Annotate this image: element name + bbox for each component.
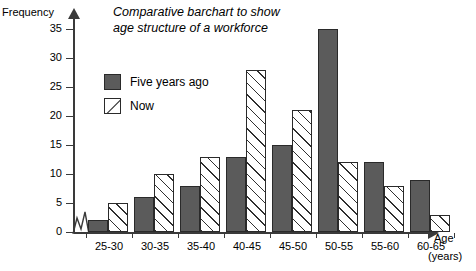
x-tick-label: 60-65 bbox=[406, 240, 456, 252]
bar-25-30-five-years-ago bbox=[88, 220, 108, 232]
y-tick-label: 25 bbox=[36, 81, 62, 92]
y-tick bbox=[66, 203, 73, 204]
y-tick bbox=[66, 29, 73, 30]
bar-30-35-now bbox=[154, 174, 174, 232]
bar-55-60-five-years-ago bbox=[364, 162, 384, 232]
bar-45-50-five-years-ago bbox=[272, 145, 292, 232]
bar-55-60-now bbox=[384, 186, 404, 232]
y-tick bbox=[66, 174, 73, 175]
bar-50-55-now bbox=[338, 162, 358, 232]
y-tick-label: 20 bbox=[36, 110, 62, 121]
x-tick-label: 30-35 bbox=[130, 240, 180, 252]
x-tick-label: 55-60 bbox=[360, 240, 410, 252]
y-tick bbox=[66, 232, 73, 233]
legend-swatch-solid-icon bbox=[104, 74, 121, 90]
y-tick bbox=[66, 116, 73, 117]
bar-50-55-five-years-ago bbox=[318, 29, 338, 232]
legend-swatch-hatch-icon bbox=[104, 98, 121, 114]
x-tick-label: 40-45 bbox=[222, 240, 272, 252]
bar-40-45-now bbox=[246, 70, 266, 232]
y-tick-label: 0 bbox=[36, 226, 62, 237]
y-tick-label: 15 bbox=[36, 139, 62, 150]
x-tick bbox=[454, 233, 455, 238]
legend: Five years ago Now bbox=[104, 72, 209, 120]
bar-35-40-now bbox=[200, 157, 220, 232]
y-tick-label: 30 bbox=[36, 52, 62, 63]
y-tick-label: 35 bbox=[36, 23, 62, 34]
x-tick-label: 35-40 bbox=[176, 240, 226, 252]
legend-label-now: Now bbox=[130, 99, 154, 113]
x-tick bbox=[86, 233, 87, 238]
bar-40-45-five-years-ago bbox=[226, 157, 246, 232]
y-axis-arrow-icon bbox=[68, 8, 80, 19]
bar-30-35-five-years-ago bbox=[134, 197, 154, 232]
y-tick-label: 5 bbox=[36, 197, 62, 208]
y-tick-label: 10 bbox=[36, 168, 62, 179]
chart-title-line-1: Comparative barchart to show bbox=[113, 4, 363, 20]
y-axis-line bbox=[73, 18, 75, 233]
legend-item-five-years-ago: Five years ago bbox=[104, 72, 209, 92]
legend-label-five-years-ago: Five years ago bbox=[130, 75, 209, 89]
bar-35-40-five-years-ago bbox=[180, 186, 200, 232]
bar-45-50-now bbox=[292, 110, 312, 232]
legend-item-now: Now bbox=[104, 96, 209, 116]
x-tick bbox=[132, 233, 133, 238]
bar-60-65-five-years-ago bbox=[410, 180, 430, 232]
x-tick bbox=[178, 233, 179, 238]
y-tick bbox=[66, 58, 73, 59]
bar-chart: Comparative barchart to show age structu… bbox=[0, 0, 476, 271]
y-tick bbox=[66, 87, 73, 88]
x-tick-label: 25-30 bbox=[84, 240, 134, 252]
x-tick-label: 45-50 bbox=[268, 240, 318, 252]
bar-25-30-now bbox=[108, 203, 128, 232]
x-tick bbox=[362, 233, 363, 238]
x-tick bbox=[224, 233, 225, 238]
x-tick bbox=[316, 233, 317, 238]
y-axis-title: Frequency bbox=[2, 6, 54, 18]
x-axis-line bbox=[74, 232, 430, 234]
y-tick bbox=[66, 145, 73, 146]
x-tick bbox=[408, 233, 409, 238]
x-tick-label: 50-55 bbox=[314, 240, 364, 252]
x-tick bbox=[270, 233, 271, 238]
bar-60-65-now bbox=[430, 215, 450, 232]
